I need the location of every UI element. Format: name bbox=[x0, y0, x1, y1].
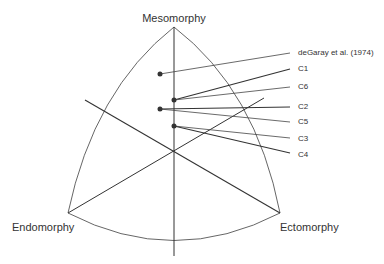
vertex-label-mesomorphy: Mesomorphy bbox=[142, 12, 206, 24]
leader-line-degaray bbox=[160, 53, 290, 74]
point-label-c4: C4 bbox=[298, 150, 309, 159]
leader-line-c5 bbox=[160, 109, 290, 122]
leader-line-c2 bbox=[160, 107, 290, 109]
leader-line-c4 bbox=[174, 126, 290, 153]
vertex-label-endomorphy: Endomorphy bbox=[12, 221, 75, 233]
point-label-c2: C2 bbox=[298, 102, 309, 111]
point-label-c3: C3 bbox=[298, 134, 309, 143]
diagonal-axis-2 bbox=[68, 98, 264, 213]
diagonal-axis-1 bbox=[85, 100, 280, 213]
point-c3-c4 bbox=[172, 124, 177, 129]
point-label-c1: C1 bbox=[298, 64, 309, 73]
point-c1-c6 bbox=[172, 98, 177, 103]
point-label-c5: C5 bbox=[298, 117, 309, 126]
point-label-degaray: deGaray et al. (1974) bbox=[298, 48, 374, 57]
vertex-label-ectomorphy: Ectomorphy bbox=[280, 221, 339, 233]
point-label-c6: C6 bbox=[298, 82, 309, 91]
leader-line-c3 bbox=[174, 126, 290, 138]
point-c2-c5 bbox=[158, 107, 163, 112]
leader-line-c1 bbox=[174, 69, 290, 100]
point-degaray bbox=[158, 72, 163, 77]
somatochart: Mesomorphy Endomorphy Ectomorphy deGaray… bbox=[0, 0, 384, 264]
